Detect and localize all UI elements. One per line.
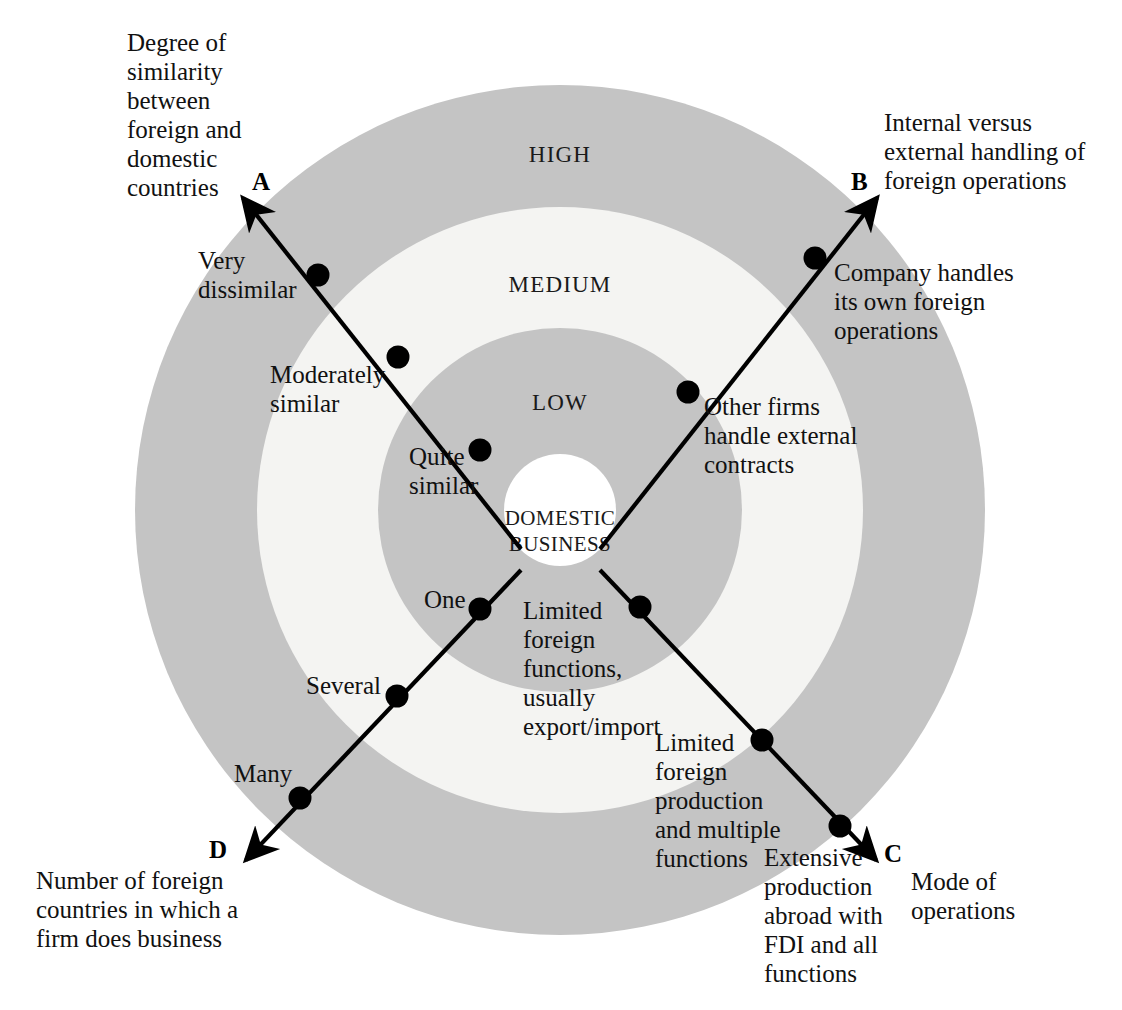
axis-D-title: Number of foreign countries in which a f… [36, 866, 238, 953]
axis-B-marker-company-handles [804, 247, 827, 270]
axis-A-stage-very-dissimilar: Very dissimilar [198, 246, 297, 304]
axis-letter-C: C [884, 840, 902, 867]
axis-A-marker-very-dissimilar [307, 264, 330, 287]
ring-label-high: HIGH [529, 142, 591, 167]
axis-B-stage-company-handles: Company handles its own foreign operatio… [834, 258, 1014, 345]
axis-A-stage-quite-similar: Quite similar [409, 442, 478, 500]
axis-D-marker-one [469, 598, 492, 621]
axis-B-title: Internal versus external handling of for… [884, 108, 1085, 195]
axis-D-stage-several: Several [306, 671, 381, 700]
ring-label-low: LOW [532, 390, 588, 415]
axis-D-stage-one: One [424, 585, 466, 614]
axis-B-stage-other-firms: Other firms handle external contracts [704, 392, 857, 479]
axis-A-title: Degree of similarity between foreign and… [127, 28, 242, 202]
axis-A-stage-moderately-similar: Moderately similar [270, 360, 385, 418]
axis-C-marker-extensive-fdi [829, 815, 852, 838]
figure-canvas: HIGH MEDIUM LOW DOMESTIC BUSINESS A B C [0, 0, 1122, 1010]
axis-letter-D: D [209, 836, 227, 863]
core-label-line2: BUSINESS [509, 532, 611, 556]
axis-C-stage-limited-functions: Limited foreign functions, usually expor… [523, 596, 660, 741]
axis-C-stage-extensive-fdi: Extensive production abroad with FDI and… [764, 843, 883, 988]
axis-D-marker-several [386, 685, 409, 708]
ring-label-medium: MEDIUM [508, 272, 611, 297]
axis-C-title: Mode of operations [911, 867, 1015, 925]
axis-letter-B: B [851, 168, 868, 195]
axis-C-stage-limited-production: Limited foreign production and multiple … [655, 728, 781, 873]
axis-A-marker-moderately-similar [387, 346, 410, 369]
axis-D-marker-many [289, 787, 312, 810]
axis-letter-A: A [252, 168, 270, 195]
axis-D-stage-many: Many [234, 759, 292, 788]
core-label-line1: DOMESTIC [505, 506, 616, 530]
axis-B-marker-other-firms [677, 381, 700, 404]
